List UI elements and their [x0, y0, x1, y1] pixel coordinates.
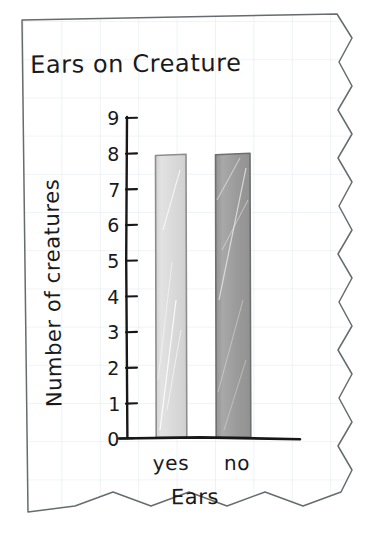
y-tick-label-9: 9 [96, 109, 120, 128]
y-tick-label-3: 3 [96, 323, 120, 342]
x-axis-line [119, 437, 300, 439]
y-axis-line [126, 117, 127, 438]
y-axis-ticks [120, 118, 137, 439]
y-tick-label-6: 6 [96, 216, 120, 235]
y-tick-label-2: 2 [96, 359, 120, 378]
y-axis-title: Number of creatures [40, 178, 65, 408]
bar-no [216, 153, 251, 437]
y-tick-label-7: 7 [97, 181, 121, 200]
bar-yes [156, 154, 187, 437]
x-tick-label-yes: yes [140, 452, 202, 474]
chart-title: Ears on Creature [30, 50, 242, 78]
x-axis-title: Ears [120, 485, 270, 508]
y-tick-label-0: 0 [96, 430, 120, 449]
y-tick-label-4: 4 [96, 288, 120, 307]
x-tick-label-no: no [206, 452, 268, 474]
y-tick-label-5: 5 [96, 252, 120, 271]
y-tick-label-8: 8 [96, 145, 120, 164]
y-tick-label-1: 1 [97, 395, 121, 414]
worksheet-page: Ears on Creature Number of creatures Ear… [0, 0, 368, 539]
